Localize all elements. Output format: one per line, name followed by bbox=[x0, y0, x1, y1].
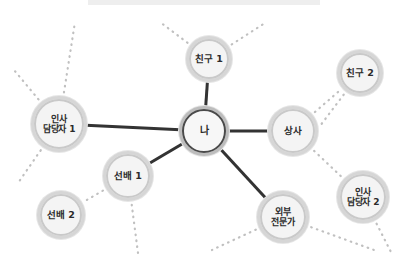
node-label-hr2: 인사 담당자 2 bbox=[347, 187, 379, 208]
node-friend2[interactable]: 친구 2 bbox=[337, 50, 383, 96]
dotted-stub-hr2-6 bbox=[377, 224, 392, 254]
solid-edge-me-expert bbox=[220, 149, 266, 199]
solid-edge-me-friend1 bbox=[206, 81, 208, 107]
node-label-friend1: 친구 1 bbox=[195, 54, 222, 65]
solid-edge-me-hr1 bbox=[86, 125, 180, 130]
dotted-stub-expert-8 bbox=[311, 227, 374, 250]
node-ring-friend2: 친구 2 bbox=[340, 53, 380, 93]
node-ring-boss: 상사 bbox=[271, 109, 315, 153]
node-ring-senior2: 선배 2 bbox=[40, 194, 82, 236]
node-label-hr1: 인사 담당자 1 bbox=[43, 114, 75, 135]
dotted-stub-friend1-0 bbox=[160, 22, 187, 43]
node-label-senior1: 선배 1 bbox=[114, 171, 141, 182]
dotted-edge-boss-hr2 bbox=[314, 151, 341, 177]
dotted-edge-senior1-senior2 bbox=[85, 191, 103, 201]
node-label-boss: 상사 bbox=[284, 126, 302, 137]
node-ring-hr1: 인사 담당자 1 bbox=[34, 99, 84, 149]
node-ring-hr2: 인사 담당자 2 bbox=[340, 174, 386, 220]
node-label-me: 나 bbox=[200, 125, 209, 137]
node-senior2[interactable]: 선배 2 bbox=[37, 191, 85, 239]
node-label-senior2: 선배 2 bbox=[47, 210, 74, 221]
dotted-stub-hr1-4 bbox=[18, 150, 41, 183]
dotted-stub-hr1-2 bbox=[14, 70, 39, 99]
dotted-edge-boss-friend2 bbox=[315, 91, 340, 112]
node-boss[interactable]: 상사 bbox=[268, 106, 318, 156]
node-hr1[interactable]: 인사 담당자 1 bbox=[31, 96, 87, 152]
dotted-stub-hr1-3 bbox=[64, 22, 75, 92]
node-ring-senior1: 선배 1 bbox=[106, 154, 150, 198]
dotted-stub-expert-7 bbox=[212, 230, 256, 250]
node-me[interactable]: 나 bbox=[179, 106, 229, 156]
node-label-friend2: 친구 2 bbox=[346, 68, 373, 79]
dotted-stub-friend1-1 bbox=[232, 23, 265, 44]
dotted-stub-friend2-5 bbox=[320, 95, 344, 126]
dotted-stub-senior1-9 bbox=[132, 205, 138, 253]
node-friend1[interactable]: 친구 1 bbox=[186, 36, 232, 82]
node-label-expert: 외부 전문가 bbox=[271, 207, 294, 228]
node-hr2[interactable]: 인사 담당자 2 bbox=[337, 171, 389, 223]
node-ring-friend1: 친구 1 bbox=[189, 39, 229, 79]
node-ring-expert: 외부 전문가 bbox=[260, 194, 306, 240]
node-expert[interactable]: 외부 전문가 bbox=[257, 191, 309, 243]
solid-edge-me-senior1 bbox=[149, 143, 184, 164]
network-diagram-canvas: 나친구 1인사 담당자 1상사친구 2인사 담당자 2외부 전문가선배 1선배 … bbox=[0, 0, 407, 276]
node-senior1[interactable]: 선배 1 bbox=[103, 151, 153, 201]
node-ring-me: 나 bbox=[182, 109, 226, 153]
